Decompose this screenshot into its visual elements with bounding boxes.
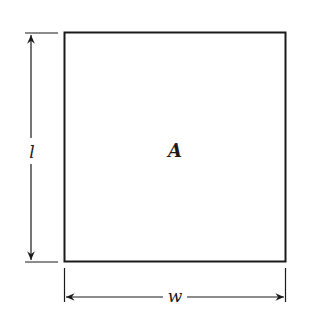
width-dimension: w xyxy=(65,268,286,306)
area-label: A xyxy=(166,140,182,161)
length-dimension: l xyxy=(25,33,58,262)
width-label: w xyxy=(168,286,183,306)
length-label: l xyxy=(29,142,34,162)
rectangle-area-diagram: l A w xyxy=(0,0,311,326)
